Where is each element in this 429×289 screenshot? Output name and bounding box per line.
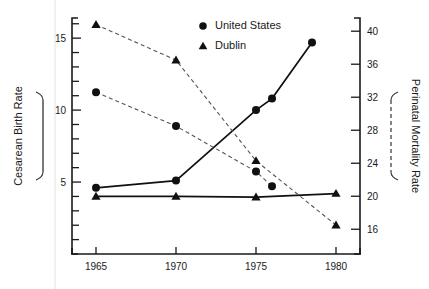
data-point-triangle-marker [331,221,340,229]
data-point-circle-marker [252,106,260,114]
data-point-triangle-marker [91,20,100,28]
data-point-circle-marker [268,95,276,103]
series-line [96,194,336,198]
right-axis-title: Perinatal Mortality Rate [410,79,422,193]
legend-entry: United States [199,19,281,31]
chart-series-layer [91,20,340,228]
data-point-circle-marker [172,177,180,185]
x-axis-tick-label: 1970 [165,261,188,272]
legend-entry-label: United States [215,19,282,31]
data-point-triangle-marker [199,42,208,50]
data-point-circle-marker [92,88,100,96]
right-style-key-bracket-bottom [391,172,398,180]
x-axis-spine [72,248,360,254]
chart-legend: United StatesDublin [199,19,282,51]
right-axis-tick-label: 36 [367,59,379,70]
right-axis-tick-label: 40 [367,26,379,37]
left-axis-title: Cesarean Birth Rate [12,86,24,186]
right-axis-tick-label: 20 [367,191,379,202]
left-axis-spine [72,18,78,254]
data-point-circle-marker [92,184,100,192]
right-axis-tick-label: 24 [367,158,379,169]
left-axis-tick-label: 5 [60,177,66,188]
legend-entry-label: Dublin [215,39,246,51]
series-line [96,92,272,186]
x-axis-tick-label: 1975 [245,261,268,272]
data-point-triangle-marker [171,55,180,63]
left-axis-tick-label: 10 [55,105,67,116]
x-axis-tick-label: 1980 [325,261,348,272]
chart-figure: 51015162024283236401965197019751980 Unit… [0,0,429,289]
data-point-circle-marker [172,122,180,130]
right-axis-spine [354,18,360,254]
data-point-circle-marker [268,182,276,190]
right-axis-tick-label: 32 [367,92,379,103]
left-style-key-bracket-top [36,92,43,100]
series-group [92,38,316,191]
series-line [96,42,312,187]
x-axis-tick-label: 1965 [85,261,108,272]
legend-entry: Dublin [199,39,247,51]
data-point-circle-marker [199,22,207,30]
data-point-circle-marker [308,38,316,46]
left-style-key-bracket-bottom [36,172,43,180]
data-point-circle-marker [252,167,260,175]
right-axis-tick-label: 16 [367,224,379,235]
left-axis-tick-label: 15 [55,33,67,44]
right-axis-tick-label: 28 [367,125,379,136]
right-style-key-bracket-top [391,92,398,100]
series-group [92,88,276,190]
